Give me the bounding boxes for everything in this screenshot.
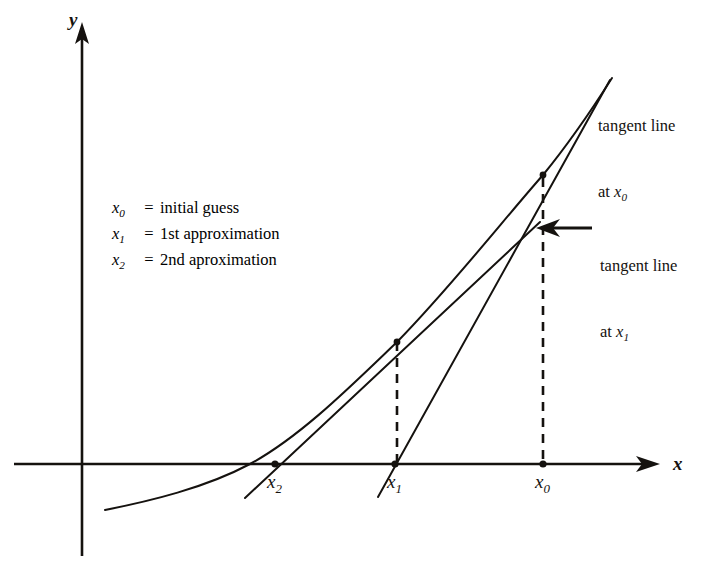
legend-eq-2: =: [138, 248, 160, 271]
tick-x0-sub: 0: [543, 481, 549, 496]
point-x1: [391, 460, 398, 467]
legend-desc-2: 2nd aproximation: [160, 248, 277, 271]
legend-var-x0: x0: [112, 196, 138, 222]
legend-row-x0: x0 = initial guess: [112, 196, 280, 222]
callout-x1-line2: at x1: [600, 321, 677, 345]
legend-eq-1: =: [138, 222, 160, 245]
callout-x0-prefix: at: [598, 182, 614, 201]
legend-var-x1-sub: 1: [119, 234, 125, 246]
callout-x1-sub: 1: [623, 332, 629, 344]
function-curve: [105, 78, 612, 510]
tangent-line-at-x1: [245, 222, 540, 498]
tick-x2-sub: 2: [275, 481, 281, 496]
tick-label-x2: x2: [267, 470, 282, 497]
callout-x0-line1: tangent line: [598, 115, 675, 137]
callout-x1-prefix: at: [600, 322, 616, 341]
legend-desc-0: initial guess: [160, 196, 239, 219]
legend-desc-1: 1st approximation: [160, 222, 280, 245]
y-axis-label: y: [69, 8, 77, 32]
x-axis-label: x: [673, 452, 683, 476]
legend-row-x1: x1 = 1st approximation: [112, 222, 280, 248]
point-x2: [271, 460, 278, 467]
legend-var-x0-sub: 0: [119, 207, 125, 219]
legend-eq-0: =: [138, 196, 160, 219]
callout-x1-line1: tangent line: [600, 255, 677, 277]
legend-row-x2: x2 = 2nd aproximation: [112, 248, 280, 274]
tick-label-x1: x1: [387, 470, 402, 497]
callout-tangent-at-x1: tangent line at x1: [600, 210, 677, 390]
tangent-line-at-x0: [378, 80, 610, 497]
point-fx1: [394, 339, 401, 346]
legend-block: x0 = initial guess x1 = 1st approximatio…: [112, 196, 280, 275]
tick-label-x0: x0: [535, 470, 550, 497]
legend-var-x2-sub: 2: [119, 260, 125, 272]
newton-method-figure: y x x2 x1 x0 x0 = initial guess x1 = 1st…: [0, 0, 713, 568]
tick-x1-sub: 1: [395, 481, 401, 496]
legend-var-x1: x1: [112, 222, 138, 248]
point-fx0: [540, 172, 547, 179]
callout-x0-sub: 0: [621, 192, 627, 204]
point-x0: [539, 460, 546, 467]
legend-var-x2: x2: [112, 248, 138, 274]
callout-x0-line2: at x0: [598, 181, 675, 205]
